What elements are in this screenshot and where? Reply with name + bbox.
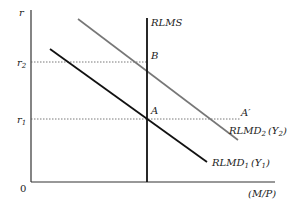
rlmd2-curve (78, 19, 238, 140)
r2-label: r2 (17, 57, 27, 70)
point-a-label: A (150, 105, 158, 116)
point-a-prime-label: A′ (240, 107, 251, 118)
origin-label: 0 (20, 183, 26, 194)
x-axis-label: (M/P) (248, 188, 276, 199)
rlmd1-curve (50, 49, 207, 162)
y-axis-label: r (19, 7, 25, 18)
rlmd1-label: RLMD1(Y1) (211, 157, 270, 170)
rlms-label: RLMS (150, 17, 182, 28)
rlmd2-label: RLMD2(Y2) (228, 125, 287, 138)
r1-label: r1 (17, 114, 26, 127)
point-b-label: B (150, 50, 158, 61)
money-market-diagram: r 0 (M/P) r2 r1 RLMS B A A′ RLMD2(Y2) RL… (0, 0, 295, 204)
